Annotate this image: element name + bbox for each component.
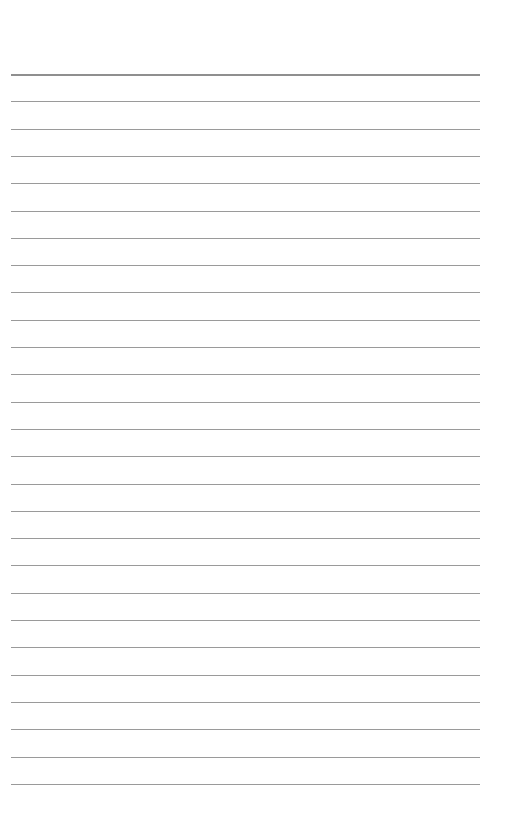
ruled-line xyxy=(11,129,480,130)
ruled-line xyxy=(11,647,480,648)
ruled-line xyxy=(11,265,480,266)
ruled-line xyxy=(11,484,480,485)
ruled-line xyxy=(11,347,480,348)
ruled-line xyxy=(11,402,480,403)
ruled-line xyxy=(11,784,480,785)
ruled-line xyxy=(11,511,480,512)
ruled-line xyxy=(11,729,480,730)
ruled-line xyxy=(11,101,480,102)
ruled-line xyxy=(11,620,480,621)
ruled-line xyxy=(11,320,480,321)
lined-paper-page xyxy=(0,0,508,831)
ruled-line xyxy=(11,675,480,676)
header-rule xyxy=(11,74,480,76)
ruled-line xyxy=(11,593,480,594)
ruled-line xyxy=(11,538,480,539)
ruled-line xyxy=(11,292,480,293)
ruled-line xyxy=(11,757,480,758)
ruled-line xyxy=(11,456,480,457)
ruled-line xyxy=(11,374,480,375)
ruled-line xyxy=(11,565,480,566)
ruled-line xyxy=(11,238,480,239)
ruled-line xyxy=(11,156,480,157)
ruled-line xyxy=(11,183,480,184)
ruled-line xyxy=(11,429,480,430)
ruled-line xyxy=(11,702,480,703)
ruled-line xyxy=(11,211,480,212)
